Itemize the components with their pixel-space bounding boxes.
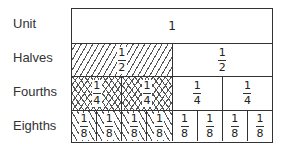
- unit-value: 1: [168, 19, 176, 33]
- fraction: 14: [192, 80, 202, 107]
- numerator: 1: [194, 80, 201, 92]
- denominator: 4: [143, 95, 150, 107]
- denominator: 8: [231, 128, 238, 140]
- row-label-fourths: Fourths: [13, 84, 57, 99]
- numerator: 1: [118, 47, 125, 59]
- eighth-cell: 18: [197, 111, 222, 141]
- numerator: 1: [206, 113, 213, 125]
- eighth-cell: 18: [222, 111, 247, 141]
- fourth-cell: 14: [222, 77, 272, 110]
- unit-cell: 1: [72, 9, 272, 43]
- unit-row: 1: [72, 9, 272, 43]
- half-cell-shaded: 12: [72, 44, 172, 76]
- denominator: 8: [256, 128, 263, 140]
- denominator: 8: [206, 128, 213, 140]
- fraction: 18: [104, 113, 114, 140]
- numerator: 1: [143, 80, 150, 92]
- numerator: 1: [219, 47, 226, 59]
- numerator: 1: [244, 80, 251, 92]
- fraction-bar-diagram: 1 12 12 14 14 14 14 18 18 18 18 18 18 18…: [71, 8, 273, 143]
- halves-row: 12 12: [72, 43, 272, 76]
- fourth-cell-shaded: 14: [72, 77, 121, 110]
- fraction: 12: [117, 47, 127, 74]
- numerator: 1: [156, 113, 163, 125]
- denominator: 8: [156, 128, 163, 140]
- numerator: 1: [131, 113, 138, 125]
- fourth-cell: 14: [172, 77, 222, 110]
- fraction: 14: [92, 80, 102, 107]
- half-cell: 12: [172, 44, 273, 76]
- fraction: 18: [205, 113, 215, 140]
- fraction: 12: [217, 47, 227, 74]
- eighth-cell: 18: [172, 111, 197, 141]
- fraction: 18: [255, 113, 265, 140]
- denominator: 2: [219, 62, 226, 74]
- eighth-cell-shaded: 18: [146, 111, 171, 141]
- eighth-cell-shaded: 18: [72, 111, 96, 141]
- denominator: 4: [194, 95, 201, 107]
- row-label-eighths: Eighths: [13, 118, 56, 133]
- fraction: 18: [129, 113, 139, 140]
- eighths-row: 18 18 18 18 18 18 18 18: [72, 110, 272, 141]
- denominator: 8: [106, 128, 113, 140]
- numerator: 1: [256, 113, 263, 125]
- fourths-row: 14 14 14 14: [72, 76, 272, 110]
- row-label-halves: Halves: [13, 50, 53, 65]
- denominator: 8: [181, 128, 188, 140]
- denominator: 4: [93, 95, 100, 107]
- eighth-cell: 18: [247, 111, 272, 141]
- numerator: 1: [81, 113, 88, 125]
- denominator: 2: [118, 62, 125, 74]
- denominator: 8: [81, 128, 88, 140]
- row-label-unit: Unit: [13, 16, 36, 31]
- numerator: 1: [93, 80, 100, 92]
- fraction: 14: [142, 80, 152, 107]
- fraction: 18: [180, 113, 190, 140]
- numerator: 1: [106, 113, 113, 125]
- fraction: 18: [154, 113, 164, 140]
- fraction: 18: [79, 113, 89, 140]
- eighth-cell-shaded: 18: [96, 111, 121, 141]
- numerator: 1: [181, 113, 188, 125]
- denominator: 4: [244, 95, 251, 107]
- numerator: 1: [231, 113, 238, 125]
- fourth-cell-shaded: 14: [121, 77, 171, 110]
- eighth-cell-shaded: 18: [121, 111, 146, 141]
- denominator: 8: [131, 128, 138, 140]
- fraction: 14: [242, 80, 252, 107]
- fraction: 18: [230, 113, 240, 140]
